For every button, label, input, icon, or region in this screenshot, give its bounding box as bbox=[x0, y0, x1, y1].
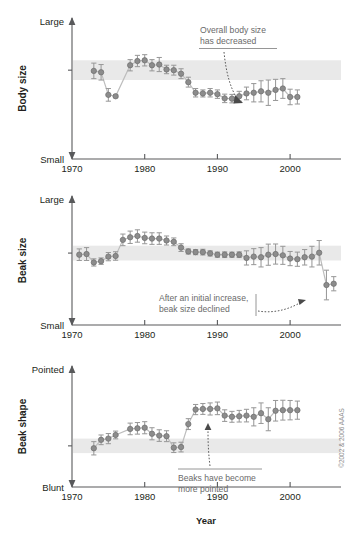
data-point-marker bbox=[186, 421, 191, 426]
data-point-marker bbox=[200, 91, 205, 96]
data-point-marker bbox=[91, 446, 96, 451]
data-point-marker bbox=[120, 237, 125, 242]
reference-band bbox=[73, 439, 341, 454]
data-point-marker bbox=[164, 67, 169, 72]
data-point-marker bbox=[207, 251, 212, 256]
data-point-marker bbox=[258, 410, 263, 415]
data-point-marker bbox=[302, 255, 307, 260]
data-point-marker bbox=[200, 406, 205, 411]
data-point-marker bbox=[142, 235, 147, 240]
data-point-marker bbox=[316, 250, 321, 255]
annotation-arrow bbox=[258, 301, 303, 312]
data-point-marker bbox=[149, 63, 154, 68]
data-point-marker bbox=[229, 96, 234, 101]
y-axis-arrow-up bbox=[69, 195, 76, 203]
data-point-marker bbox=[178, 71, 183, 76]
data-point-marker bbox=[157, 236, 162, 241]
data-point-marker bbox=[258, 89, 263, 94]
data-point-marker bbox=[142, 425, 147, 430]
data-point-marker bbox=[244, 413, 249, 418]
panel-body-size: 1970198019902000LargeSmallBody size bbox=[17, 16, 341, 174]
data-point-marker bbox=[251, 254, 256, 259]
figure-canvas: 1970198019902000LargeSmallBody size19701… bbox=[0, 0, 352, 542]
data-point-marker bbox=[106, 254, 111, 259]
data-point-marker bbox=[215, 252, 220, 257]
y-axis-arrow-up bbox=[69, 17, 76, 25]
y-axis-title: Beak size bbox=[17, 237, 28, 283]
data-point-marker bbox=[178, 444, 183, 449]
data-point-marker bbox=[113, 94, 118, 99]
data-point-marker bbox=[113, 253, 118, 258]
y-axis-arrow-up bbox=[69, 365, 76, 373]
data-point-marker bbox=[98, 70, 103, 75]
data-point-marker bbox=[186, 79, 191, 84]
copyright-credit: ©2002 & 2006 AAAS bbox=[338, 408, 345, 467]
data-point-marker bbox=[258, 255, 263, 260]
data-point-marker bbox=[127, 63, 132, 68]
x-axis-tick-label: 1980 bbox=[134, 491, 155, 502]
data-point-marker bbox=[127, 426, 132, 431]
annotation-line-1: Beaks have become bbox=[178, 473, 256, 483]
data-point-marker bbox=[135, 58, 140, 63]
data-point-marker bbox=[244, 91, 249, 96]
y-axis-bottom-label: Small bbox=[40, 154, 64, 165]
annotation-line-2: has decreased bbox=[200, 36, 257, 46]
data-point-marker bbox=[222, 413, 227, 418]
data-point-marker bbox=[215, 406, 220, 411]
data-point-marker bbox=[106, 92, 111, 97]
data-point-marker bbox=[287, 256, 292, 261]
data-point-marker bbox=[171, 67, 176, 72]
data-point-marker bbox=[157, 62, 162, 67]
data-point-marker bbox=[266, 90, 271, 95]
y-axis-top-label: Large bbox=[40, 194, 64, 205]
x-axis-tick-label: 1990 bbox=[207, 329, 228, 340]
data-point-marker bbox=[193, 90, 198, 95]
data-point-marker bbox=[186, 249, 191, 254]
y-axis-title: Body size bbox=[17, 65, 28, 112]
data-point-marker bbox=[149, 236, 154, 241]
data-point-marker bbox=[91, 68, 96, 73]
x-axis-tick-label: 1970 bbox=[61, 163, 82, 174]
data-point-marker bbox=[135, 233, 140, 238]
data-point-marker bbox=[113, 432, 118, 437]
data-point-marker bbox=[251, 414, 256, 419]
x-axis-tick-label: 1970 bbox=[61, 491, 82, 502]
data-point-marker bbox=[287, 94, 292, 99]
data-point-marker bbox=[280, 407, 285, 412]
annotation-line-2: beak size declined bbox=[159, 304, 230, 314]
data-point-marker bbox=[287, 407, 292, 412]
data-point-marker bbox=[237, 414, 242, 419]
data-point-marker bbox=[295, 94, 300, 99]
y-axis-bottom-label: Blunt bbox=[42, 482, 64, 493]
data-point-marker bbox=[84, 251, 89, 256]
data-point-marker bbox=[237, 252, 242, 257]
data-point-marker bbox=[309, 254, 314, 259]
y-axis-bottom-label: Small bbox=[40, 320, 64, 331]
data-points bbox=[77, 230, 337, 300]
data-point-marker bbox=[331, 281, 336, 286]
x-axis-tick-label: 1990 bbox=[207, 163, 228, 174]
data-point-marker bbox=[222, 252, 227, 257]
data-point-marker bbox=[273, 87, 278, 92]
data-point-marker bbox=[164, 433, 169, 438]
data-point-marker bbox=[273, 408, 278, 413]
data-point-marker bbox=[171, 239, 176, 244]
data-point-marker bbox=[280, 86, 285, 91]
data-point-marker bbox=[324, 282, 329, 287]
data-point-marker bbox=[273, 251, 278, 256]
data-point-marker bbox=[98, 437, 103, 442]
data-point-marker bbox=[193, 407, 198, 412]
x-axis-tick-label: 2000 bbox=[280, 329, 301, 340]
annotation-line-1: Overall body size bbox=[200, 25, 266, 35]
data-point-marker bbox=[251, 90, 256, 95]
y-axis-top-label: Large bbox=[40, 16, 64, 27]
data-point-marker bbox=[229, 252, 234, 257]
data-point-marker bbox=[280, 253, 285, 258]
y-axis-top-label: Pointed bbox=[32, 364, 64, 375]
data-point-marker bbox=[222, 96, 227, 101]
data-point-marker bbox=[200, 249, 205, 254]
x-axis-title: Year bbox=[196, 515, 216, 526]
data-point-marker bbox=[266, 252, 271, 257]
annotation-beak-shape: Beaks have becomemore pointed bbox=[178, 423, 262, 494]
annotation-beak-size: After an initial increase,beak size decl… bbox=[159, 293, 306, 316]
